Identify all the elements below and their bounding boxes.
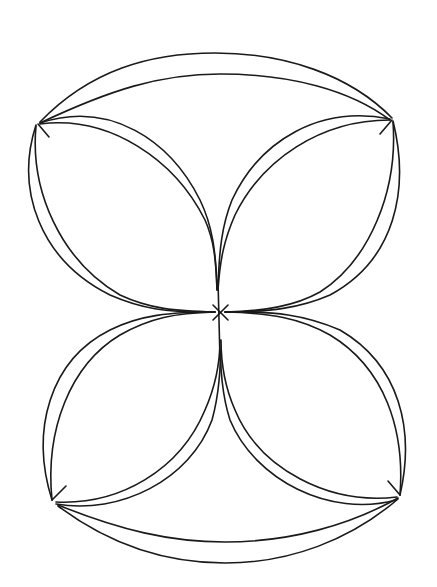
graph-drawing — [0, 0, 437, 587]
edge-ur-inner-left — [218, 120, 390, 290]
edge-ul-outer-left — [29, 125, 215, 312]
edge-ul-inner-left — [35, 126, 215, 312]
edge-lr-outer-right — [225, 312, 405, 495]
edge-lr-inner-left — [221, 350, 396, 504]
edge-ul-inner-right — [40, 123, 217, 290]
tick-top-left — [38, 124, 49, 137]
tick-bottom-left — [52, 486, 66, 500]
edge-ll-outer-left — [43, 312, 215, 500]
edge-ur-outer-right — [225, 121, 399, 312]
edge-lr-inner-right — [225, 312, 401, 495]
edge-bottom-outer — [58, 499, 398, 563]
edge-ll-inner-left — [51, 312, 215, 500]
edge-top-outer — [40, 53, 392, 122]
edge-bottom-inner — [58, 498, 398, 542]
edge-lr-outer-left — [221, 340, 397, 498]
edge-ll-outer-right — [56, 340, 220, 502]
tick-bottom-right — [388, 481, 400, 495]
edge-ur-inner-right — [225, 122, 394, 312]
tick-top-right — [380, 120, 392, 134]
diagram-canvas — [0, 0, 437, 587]
